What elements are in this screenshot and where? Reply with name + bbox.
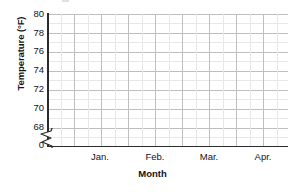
y-tick-label-72: 72	[33, 84, 44, 94]
gridline-v-minor-4	[142, 14, 143, 146]
gridline-h-minor-73	[48, 80, 288, 81]
gridline-v-minor-1	[61, 14, 62, 146]
x-axis-title: Month	[0, 168, 291, 179]
y-tick-label-80: 80	[33, 9, 44, 19]
gridline-v-major-3	[128, 14, 129, 146]
gridline-h-78	[48, 33, 288, 34]
gridline-v-major-6	[209, 14, 210, 146]
gridline-h-minor-71	[48, 99, 288, 100]
gridline-h-minor-69	[48, 118, 288, 119]
x-axis-tick-labels: Jan. Feb. Mar. Apr.	[0, 151, 291, 167]
gridline-v-major-7	[236, 14, 237, 146]
x-tick-label-apr: Apr.	[255, 151, 272, 163]
y-axis-line	[47, 13, 49, 147]
gridline-v-minor-5	[169, 14, 170, 146]
gridline-v-major-2	[101, 14, 102, 146]
gridline-h-72	[48, 90, 288, 91]
chart-container: Temperature (°F) 80 78 76 74 72 70 68 0	[0, 0, 291, 192]
gridline-v-minor-8	[250, 14, 251, 146]
gridline-v-major-8	[263, 14, 264, 146]
gridline-v-major-1	[74, 14, 75, 146]
gridline-h-minor-below-68	[48, 137, 288, 138]
y-tick-label-76: 76	[33, 46, 44, 56]
gridline-h-minor-77	[48, 42, 288, 43]
gridline-h-minor-75	[48, 61, 288, 62]
gridline-h-76	[48, 52, 288, 53]
gridline-v-minor-2	[88, 14, 89, 146]
gridline-v-major-4	[155, 14, 156, 146]
y-tick-label-70: 70	[33, 103, 44, 113]
gridline-h-70	[48, 109, 288, 110]
x-tick-label-jan: Jan.	[91, 151, 109, 163]
gridline-h-74	[48, 71, 288, 72]
gridline-v-major-5	[182, 14, 183, 146]
page-artifact	[62, 0, 69, 2]
gridline-v-minor-6	[196, 14, 197, 146]
gridline-v-minor-3	[115, 14, 116, 146]
gridline-v-minor-9	[277, 14, 278, 146]
x-tick-label-feb: Feb.	[145, 151, 164, 163]
gridline-h-minor-79	[48, 23, 288, 24]
x-tick-label-mar: Mar.	[200, 151, 218, 163]
x-axis-line	[47, 146, 288, 147]
y-tick-label-74: 74	[33, 65, 44, 75]
gridline-h-80	[48, 14, 288, 15]
plot-area	[48, 14, 288, 146]
gridline-v-minor-7	[223, 14, 224, 146]
axis-break-icon	[38, 128, 54, 148]
gridline-h-68	[48, 128, 288, 129]
x-axis-title-text: Month	[138, 168, 167, 179]
y-tick-label-78: 78	[33, 28, 44, 38]
